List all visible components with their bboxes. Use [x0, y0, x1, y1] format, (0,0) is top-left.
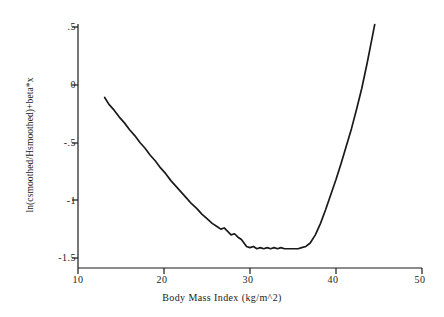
x-axis: [78, 268, 422, 274]
plot-area: [0, 0, 444, 317]
y-axis: [72, 24, 78, 268]
chart-figure: ln(csmoothed/Hsmoothed)+beta*x Body Mass…: [0, 0, 444, 317]
data-line-series: [105, 25, 375, 249]
